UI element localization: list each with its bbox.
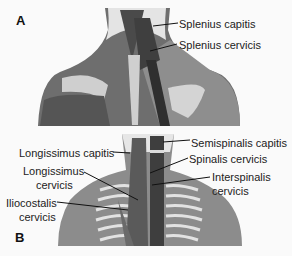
label-iliocostalis-cervicis-2: cervicis: [19, 211, 56, 223]
label-spinalis-cervicis: Spinalis cervicis: [189, 153, 267, 165]
label-interspinalis-cervicis-2: cervicis: [212, 185, 249, 197]
panel-a-letter: A: [16, 13, 25, 28]
label-splenius-cervicis: Splenius cervicis: [179, 39, 261, 51]
label-semispinalis-capitis: Semispinalis capitis: [191, 137, 287, 149]
label-interspinalis-cervicis-1: Interspinalis: [212, 171, 271, 183]
panel-b-letter: B: [15, 230, 24, 245]
label-longissimus-cervicis-1: Longissimus: [23, 165, 84, 177]
label-longissimus-cervicis-2: cervicis: [36, 179, 73, 191]
label-iliocostalis-cervicis-1: Iliocostalis: [6, 197, 57, 209]
label-splenius-capitis: Splenius capitis: [179, 18, 255, 30]
label-longissimus-capitis: Longissimus capitis: [19, 147, 114, 159]
